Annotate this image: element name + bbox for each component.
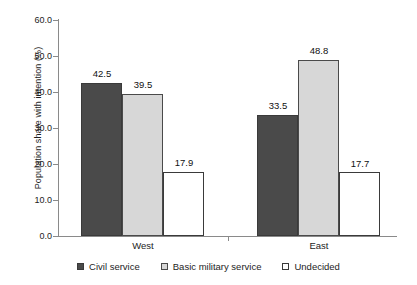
bar-east-undecided [339, 172, 380, 236]
y-tick-label-30: 30.0 [6, 123, 52, 133]
x-axis-category-separator-tick [228, 237, 229, 241]
legend-label-civil-service: Civil service [89, 261, 140, 272]
legend-swatch-filled-light-square-icon [161, 263, 168, 270]
legend: Civil service Basic military service Und… [0, 261, 417, 272]
legend-label-basic-military-service: Basic military service [173, 261, 262, 272]
bar-value-west-undecided: 17.9 [175, 157, 194, 168]
bar-west-civil-service [81, 83, 122, 236]
bar-value-east-undecided: 17.7 [351, 158, 370, 169]
bar-west-undecided [163, 172, 204, 236]
plot-area [58, 20, 396, 236]
bar-east-civil-service [257, 115, 298, 236]
legend-swatch-filled-dark-square-icon [77, 263, 84, 270]
y-tick-label-10: 10.0 [6, 195, 52, 205]
bar-value-east-basic-military-service: 48.8 [310, 45, 329, 56]
bar-west-basic-military-service [122, 94, 163, 236]
bar-value-east-civil-service: 33.5 [269, 100, 288, 111]
y-tick-label-0: 0.0 [6, 231, 52, 241]
bar-value-west-basic-military-service: 39.5 [134, 79, 153, 90]
bar-chart: Population share with intention (%) 60.0… [0, 0, 417, 285]
legend-label-undecided: Undecided [294, 261, 339, 272]
legend-item-basic-military-service: Basic military service [161, 261, 262, 272]
x-axis-category-label-west: West [132, 240, 153, 251]
y-tick-label-20: 20.0 [6, 159, 52, 169]
y-tick-label-60: 60.0 [6, 15, 52, 25]
y-tick-label-40: 40.0 [6, 87, 52, 97]
legend-item-civil-service: Civil service [77, 261, 140, 272]
x-axis-category-label-east: East [309, 240, 328, 251]
y-tick-label-50: 50.0 [6, 51, 52, 61]
legend-item-undecided: Undecided [282, 261, 339, 272]
bar-value-west-civil-service: 42.5 [93, 68, 112, 79]
legend-swatch-empty-square-icon [282, 263, 289, 270]
bar-east-basic-military-service [298, 60, 339, 236]
